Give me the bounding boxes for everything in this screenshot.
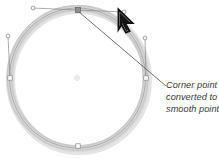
caption-line-3: smooth point [166,104,219,116]
caption-line-2: converted to a [166,92,219,104]
caption: Corner point converted to a smooth point [166,80,219,115]
anchor-point-left[interactable] [8,76,12,80]
handle-endpoint-top-left[interactable] [31,6,35,10]
anchor-point-bottom[interactable] [76,144,80,148]
handle-endpoint-right-up[interactable] [143,36,147,40]
handle-endpoint-left-up[interactable] [6,34,10,38]
anchor-point-right[interactable] [144,76,148,80]
center-marker [75,76,80,81]
figure-canvas [0,0,219,158]
caption-line-1: Corner point [166,80,219,92]
vector-path-illustration: Corner point converted to a smooth point [0,0,219,158]
anchor-point-top[interactable] [76,8,81,13]
